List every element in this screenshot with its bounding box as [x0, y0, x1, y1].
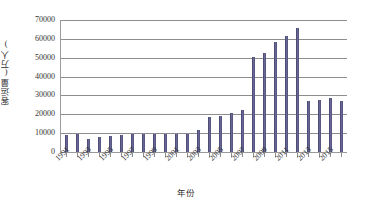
y-axis-tick-label: 60000 — [35, 35, 55, 43]
bar[interactable] — [252, 57, 255, 152]
bar-slot — [72, 20, 83, 152]
bar[interactable] — [307, 101, 310, 152]
y-axis-tick-label: 50000 — [35, 54, 55, 62]
bar-slot — [105, 20, 116, 152]
bar[interactable] — [263, 53, 266, 152]
bar-slot — [292, 20, 303, 152]
bar-slot — [116, 20, 127, 152]
bar-slot — [149, 20, 160, 152]
x-axis-title: 年份 — [0, 188, 372, 198]
bar-slot — [94, 20, 105, 152]
y-axis-tick-label: 10000 — [35, 129, 55, 137]
bar[interactable] — [230, 113, 233, 152]
bar[interactable] — [296, 28, 299, 152]
bar[interactable] — [340, 101, 343, 152]
bar-slot — [160, 20, 171, 152]
bar[interactable] — [120, 135, 123, 152]
bar-series — [61, 20, 347, 152]
y-axis-title: 客运量(万人) — [2, 40, 16, 105]
bar[interactable] — [76, 134, 79, 152]
bar-slot — [259, 20, 270, 152]
bar-slot — [61, 20, 72, 152]
bar[interactable] — [329, 98, 332, 152]
bar-slot — [193, 20, 204, 152]
bar-slot — [171, 20, 182, 152]
plot-area — [60, 20, 347, 153]
bar-slot — [204, 20, 215, 152]
bar[interactable] — [98, 137, 101, 152]
bar[interactable] — [186, 134, 189, 152]
bar-slot — [127, 20, 138, 152]
bar-slot — [314, 20, 325, 152]
bar-slot — [303, 20, 314, 152]
bar-slot — [226, 20, 237, 152]
y-axis-tick-label: 30000 — [35, 91, 55, 99]
bar-slot — [237, 20, 248, 152]
bar-slot — [270, 20, 281, 152]
bar-slot — [325, 20, 336, 152]
bar[interactable] — [274, 42, 277, 152]
bar[interactable] — [142, 134, 145, 152]
bar[interactable] — [208, 117, 211, 152]
bar[interactable] — [318, 100, 321, 152]
bar-slot — [182, 20, 193, 152]
bar-slot — [336, 20, 347, 152]
bar-slot — [138, 20, 149, 152]
y-axis-tick-label: 40000 — [35, 73, 55, 81]
bar-slot — [215, 20, 226, 152]
bar-slot — [83, 20, 94, 152]
y-axis-tick-labels: 700006000050000400003000020000100000 — [16, 14, 58, 152]
bar[interactable] — [164, 134, 167, 152]
y-axis-tick-label: 70000 — [35, 16, 55, 24]
bar-slot — [281, 20, 292, 152]
y-axis-tick-label: 20000 — [35, 110, 55, 118]
bar-chart: 客运量(万人) 70000600005000040000300002000010… — [0, 0, 372, 205]
x-axis-tick-labels: 1991199319951997199920012003200520072009… — [60, 157, 346, 183]
bar[interactable] — [285, 36, 288, 152]
bar-slot — [248, 20, 259, 152]
